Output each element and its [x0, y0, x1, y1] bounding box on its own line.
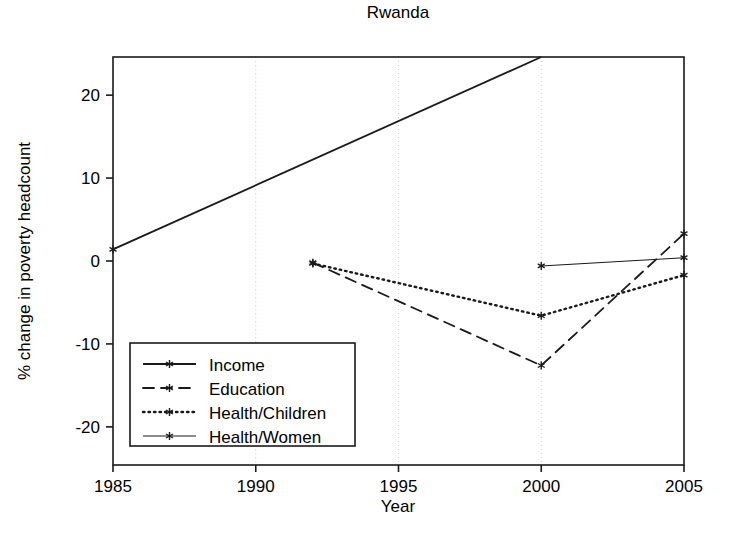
chart-canvas: Rwanda 19851990199520002005 -20-1001020 …: [0, 0, 736, 542]
figure-background: [0, 0, 736, 542]
y-tick-label: 20: [81, 86, 100, 105]
legend-label: Income: [209, 356, 265, 375]
y-tick-label: 0: [91, 252, 100, 271]
chart-legend[interactable]: IncomeEducationHealth/ChildrenHealth/Wom…: [130, 343, 355, 447]
x-tick-label: 1985: [94, 477, 132, 496]
chart-figure: Rwanda 19851990199520002005 -20-1001020 …: [0, 0, 736, 542]
x-tick-label: 2000: [522, 477, 560, 496]
legend-label: Education: [209, 380, 285, 399]
legend-label: Health/Women: [209, 428, 321, 447]
chart-title: Rwanda: [367, 3, 430, 22]
legend-label: Health/Children: [209, 404, 326, 423]
y-axis-label: % change in poverty headcount: [15, 142, 34, 380]
x-axis-label: Year: [381, 497, 416, 516]
y-tick-label: -10: [75, 335, 100, 354]
y-tick-label: -20: [75, 418, 100, 437]
x-tick-label: 1990: [237, 477, 275, 496]
x-tick-label: 1995: [380, 477, 418, 496]
x-tick-label: 2005: [665, 477, 703, 496]
y-tick-label: 10: [81, 169, 100, 188]
